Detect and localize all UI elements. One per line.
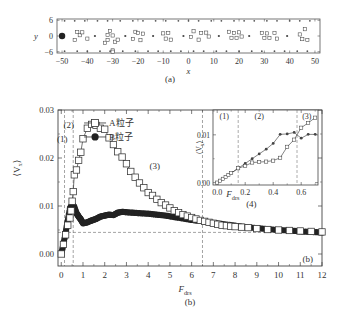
y-tick-label: 6 (49, 16, 53, 25)
series-a-marker (119, 154, 125, 160)
x-tick-label: 12 (318, 270, 327, 280)
b-particle-marker (94, 35, 96, 37)
y-tick-label: 0.02 (39, 153, 54, 163)
series-a-marker (286, 227, 292, 233)
wall-particle-marker (155, 20, 157, 22)
wall-particle-marker (170, 50, 172, 52)
a-particle-marker (169, 38, 172, 41)
a-particle-marker (303, 28, 306, 31)
a-particle-marker (207, 35, 210, 38)
a-particle-marker (164, 37, 167, 40)
x-tick-label: 2 (102, 270, 107, 280)
legend-label: A粒子 (109, 117, 133, 128)
inset-region-annotation: (1) (220, 112, 230, 121)
a-particle-marker (265, 32, 268, 35)
y-tick-label: −6 (44, 48, 53, 57)
wall-particle-marker (276, 20, 278, 22)
inset-x-tick-label: 0.4 (268, 188, 278, 197)
wall-particle-marker (233, 20, 235, 22)
a-particle-marker (205, 31, 208, 34)
series-a-marker (319, 229, 325, 235)
a-particle-marker (298, 33, 301, 36)
inset-region-annotation: (3) (302, 112, 312, 121)
wall-particle-marker (64, 20, 66, 22)
a-particle-marker (240, 35, 243, 38)
b-particle-marker (286, 35, 288, 37)
panel-b-corner-label: (b) (303, 254, 314, 264)
x-tick-label: 40 (286, 57, 294, 66)
series-a-marker (238, 224, 244, 230)
wall-particle-marker (238, 50, 240, 52)
a-particle-marker (301, 38, 304, 41)
x-tick-label: −50 (56, 57, 69, 66)
inset-series-a-marker (272, 159, 275, 162)
inset-series-a-marker (279, 156, 282, 159)
wall-particle-marker (86, 50, 88, 52)
wall-particle-marker (84, 20, 86, 22)
series-a-marker (58, 251, 64, 257)
a-particle-marker (131, 37, 134, 40)
series-a-marker (60, 241, 66, 247)
a-particle-marker (230, 36, 233, 39)
wall-particle-marker (251, 50, 253, 52)
x-tick-label: 9 (255, 270, 260, 280)
wall-particle-marker (119, 20, 121, 22)
wall-particle-marker (165, 20, 167, 22)
x-tick-label: 50 (311, 57, 319, 66)
series-a-marker (308, 228, 314, 234)
y-tick-label: 0 (49, 32, 53, 41)
inset-series-a-marker (230, 171, 233, 174)
region-annotation: (3) (149, 161, 160, 171)
wall-particle-marker (226, 50, 228, 52)
wall-particle-marker (147, 50, 149, 52)
y-tick-label: 0.00 (39, 249, 54, 259)
a-particle-marker (111, 34, 114, 37)
inset-x-axis-label: Fdrs (225, 189, 240, 201)
a-particle-marker (273, 31, 276, 34)
inset-y-axis-label: ⟨Vx⟩ (195, 140, 205, 154)
x-tick-label: −30 (106, 57, 119, 66)
a-particle-marker (189, 35, 192, 38)
inset-series-a-marker (265, 160, 268, 163)
inset-series-a-marker (300, 126, 303, 129)
series-a-marker (69, 198, 75, 204)
wall-particle-marker (193, 50, 195, 52)
x-tick-label: 4 (146, 270, 151, 280)
x-tick-label: 11 (296, 270, 305, 280)
inset-series-a-marker (293, 138, 296, 141)
a-particle-marker (227, 30, 230, 33)
inset-series-a-marker (286, 145, 289, 148)
inset-series-a-marker (258, 160, 261, 163)
a-particle-marker (111, 50, 114, 53)
inset-series-b-marker (272, 142, 275, 145)
series-a-marker (102, 126, 108, 132)
inset-series-b-marker (265, 148, 268, 151)
wall-particle-marker (261, 50, 263, 52)
x-tick-label: 1 (81, 270, 86, 280)
inset-series-b-marker (251, 157, 254, 160)
wall-particle-marker (296, 50, 298, 52)
x-tick-label: −40 (81, 57, 94, 66)
wall-particle-marker (284, 50, 286, 52)
wall-particle-marker (188, 20, 190, 22)
b-particle-marker (182, 35, 184, 37)
a-particle-marker (106, 33, 109, 36)
panel-a-plot: −50−40−30−20−100102030405060−6xy (33, 16, 320, 76)
wall-particle-marker (266, 20, 268, 22)
series-a-marker (275, 227, 281, 233)
legend-label: B粒子 (109, 131, 133, 142)
inset-y-tick-label: 0.00 (197, 179, 210, 188)
inset-series-a-marker (244, 164, 247, 167)
y-axis-label: ⟨Vx⟩ (12, 160, 23, 177)
inset-series-b-marker (314, 133, 317, 136)
inset-series-b-marker (279, 133, 282, 136)
series-a-marker (245, 224, 251, 230)
wall-particle-marker (132, 20, 134, 22)
inset-series-a-marker (314, 116, 317, 119)
inset-region-annotation: (2) (255, 112, 265, 121)
x-axis-label: Fdrs (177, 284, 192, 296)
a-particle-marker (275, 37, 278, 40)
x-tick-label: −10 (157, 57, 170, 66)
y-axis-label: y (33, 31, 38, 41)
a-particle-marker (235, 36, 238, 39)
